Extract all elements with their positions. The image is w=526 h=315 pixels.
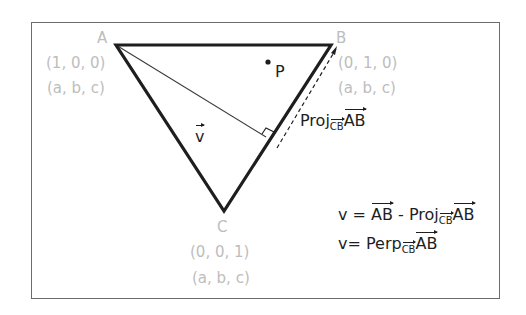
eq1-operator: - <box>393 205 409 224</box>
vertex-b-coord: (0, 1, 0) <box>338 56 397 71</box>
vertex-a-label: A <box>97 31 107 46</box>
vertex-c-coord: (0, 0, 1) <box>190 245 249 260</box>
equation-1: v = AB - ProjCBAB <box>338 207 475 223</box>
vector-v-line <box>116 45 266 137</box>
vertex-b-label: B <box>336 31 346 46</box>
eq1-subscript: CB <box>439 216 453 226</box>
projection-arrowhead-icon <box>331 46 337 55</box>
eq1-term1: AB <box>371 207 393 223</box>
eq2-subscript: CB <box>402 245 416 255</box>
eq2-func: Perp <box>366 234 402 253</box>
triangle-diagram <box>0 0 526 315</box>
eq2-lhs: v= <box>338 234 366 253</box>
eq1-lhs: v = <box>338 205 371 224</box>
vertex-b-params: (a, b, c) <box>338 81 396 96</box>
projection-dashed-line <box>277 49 336 148</box>
equation-2: v= PerpCBAB <box>338 236 437 252</box>
vector-v-label: v <box>195 129 204 145</box>
vertex-c-params: (a, b, c) <box>192 271 250 286</box>
proj-subscript: CB <box>330 122 344 132</box>
eq2-term2: AB <box>415 236 437 252</box>
eq1-term2: AB <box>453 207 475 223</box>
proj-vector-text: AB <box>344 113 366 129</box>
projection-label: ProjCBAB <box>300 113 366 129</box>
eq1-func: Proj <box>409 205 439 224</box>
vertex-a-coord: (1, 0, 0) <box>46 56 105 71</box>
vertex-a-params: (a, b, c) <box>47 81 105 96</box>
vertex-c-label: C <box>217 220 227 235</box>
proj-func-text: Proj <box>300 111 330 130</box>
point-p-dot <box>265 59 270 64</box>
vector-v-text: v <box>195 129 204 145</box>
point-p-label: P <box>275 64 285 80</box>
triangle-abc <box>116 45 331 211</box>
